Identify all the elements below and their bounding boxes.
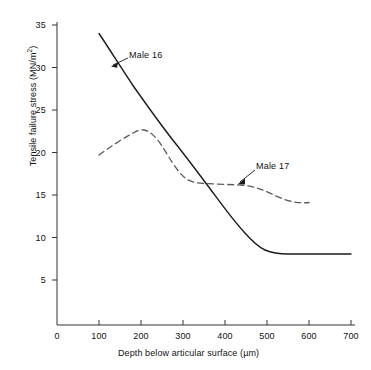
annotation-arrow-male-17 (238, 170, 255, 185)
y-axis-title-close: ) (28, 46, 38, 49)
x-axis-ticks (99, 320, 351, 325)
x-tick-label-600: 600 (301, 331, 317, 341)
y-axis-title-exponent: 2 (26, 49, 33, 53)
chart-figure: 35 30 25 20 15 10 5 0 100 200 300 400 50… (0, 0, 371, 370)
annotation-arrow-male-16 (111, 58, 128, 68)
x-tick-label-300: 300 (175, 331, 191, 341)
y-tick-label-5: 5 (24, 275, 46, 285)
series-annotation-male-17: Male 17 (256, 161, 289, 171)
x-tick-label-400: 400 (217, 331, 233, 341)
x-axis-title: Depth below articular surface (µm) (118, 348, 259, 358)
series-annotation-male-16: Male 16 (129, 50, 162, 60)
chart-plot-area (0, 0, 371, 370)
x-tick-label-200: 200 (133, 331, 149, 341)
x-tick-label-100: 100 (91, 331, 107, 341)
x-tick-label-700: 700 (343, 331, 359, 341)
y-axis-title: Tensile failure stress (MN/m2) (26, 6, 38, 206)
x-tick-label-500: 500 (259, 331, 275, 341)
x-tick-label-0: 0 (54, 331, 59, 341)
y-axis-ticks (52, 25, 57, 280)
y-tick-label-10: 10 (24, 233, 46, 243)
series-line-male-16 (99, 34, 351, 255)
y-axis-title-base: Tensile failure stress (MN/m (28, 53, 38, 167)
